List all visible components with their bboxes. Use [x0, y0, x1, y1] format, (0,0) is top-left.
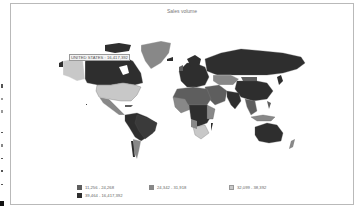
edge-mark	[1, 132, 3, 133]
edge-mark	[1, 158, 3, 159]
legend-label: 39,464 - 16,417,392	[85, 193, 123, 198]
legend-item-bin3[interactable]: 32,099 - 38,392	[229, 185, 266, 190]
edge-mark	[1, 84, 3, 88]
edge-mark	[1, 144, 3, 147]
region-kazakhstan[interactable]	[213, 75, 239, 85]
region-japan[interactable]	[277, 75, 283, 85]
legend-label: 11,256 - 24,268	[85, 185, 114, 190]
edge-mark	[1, 184, 3, 185]
chart-panel: Sales volume	[10, 3, 354, 205]
region-russia[interactable]	[205, 49, 305, 75]
region-philippines[interactable]	[267, 101, 271, 109]
region-madagascar[interactable]	[211, 123, 213, 131]
region-china[interactable]	[235, 81, 273, 101]
edge-mark	[1, 110, 3, 113]
legend-item-bin2[interactable]: 24,342 - 31,918	[149, 185, 186, 190]
region-east-africa[interactable]	[207, 105, 215, 119]
region-australia[interactable]	[255, 123, 283, 143]
region-new-zealand[interactable]	[289, 139, 295, 149]
legend-item-bin4[interactable]: 39,464 - 16,417,392	[77, 193, 123, 198]
region-alaska[interactable]	[63, 59, 85, 81]
legend-label: 24,342 - 31,918	[157, 185, 186, 190]
region-aleutian[interactable]	[59, 61, 63, 67]
world-map[interactable]	[11, 4, 355, 206]
region-canada-arctic[interactable]	[105, 43, 131, 53]
edge-block	[0, 201, 4, 206]
region-indonesia[interactable]	[251, 115, 275, 121]
legend-swatch	[229, 185, 234, 190]
region-iceland[interactable]	[167, 57, 173, 61]
region-pacific-isle[interactable]	[86, 104, 87, 105]
legend-label: 32,099 - 38,392	[237, 185, 266, 190]
region-caribbean[interactable]	[125, 105, 133, 107]
region-uk[interactable]	[179, 65, 183, 71]
region-greenland[interactable]	[141, 41, 171, 69]
edge-mark	[1, 170, 3, 172]
region-southeast-asia[interactable]	[245, 99, 257, 115]
region-mongolia[interactable]	[241, 77, 257, 81]
legend-item-bin1[interactable]: 11,256 - 24,268	[77, 185, 114, 190]
legend-swatch	[149, 185, 154, 190]
edge-mark	[1, 98, 3, 100]
legend-swatch	[77, 185, 82, 190]
region-india[interactable]	[227, 91, 241, 109]
legend-swatch	[77, 193, 82, 198]
map-tooltip: UNITED STATES : 16,417,392	[69, 54, 130, 61]
